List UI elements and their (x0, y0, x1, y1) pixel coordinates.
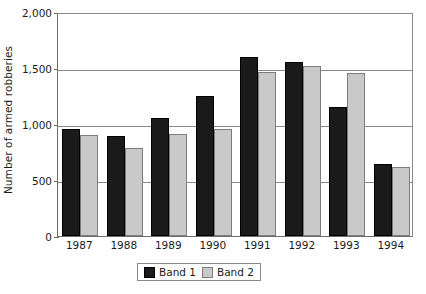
y-tick-label: 1,000 (14, 119, 52, 131)
bar-1994-band-2 (392, 167, 410, 236)
y-tick-mark (54, 237, 59, 238)
bar-group (196, 14, 232, 236)
bar-group (374, 14, 410, 236)
y-tick-label: 2,000 (14, 7, 52, 19)
bar-group (329, 14, 365, 236)
bar-1992-band-1 (285, 62, 303, 236)
bar-chart: Number of armed robberies 05001,0001,500… (0, 0, 426, 294)
legend-label: Band 2 (217, 266, 254, 278)
x-tick-label: 1990 (199, 239, 226, 251)
bar-group (62, 14, 98, 236)
bar-1989-band-2 (169, 134, 187, 236)
x-tick-label: 1991 (244, 239, 271, 251)
x-tick-label: 1989 (155, 239, 182, 251)
bar-1987-band-1 (62, 129, 80, 236)
bar-1992-band-2 (303, 66, 321, 236)
bar-1990-band-2 (214, 129, 232, 236)
bar-group (240, 14, 276, 236)
legend-swatch-icon (202, 267, 213, 278)
y-tick-label: 0 (14, 231, 52, 243)
bar-group (107, 14, 143, 236)
x-tick-label: 1993 (333, 239, 360, 251)
legend-entry-band-2: Band 2 (202, 266, 254, 278)
x-tick-label: 1992 (288, 239, 315, 251)
y-axis-ticks: 05001,0001,5002,000 (12, 0, 52, 294)
bar-1993-band-2 (347, 73, 365, 236)
legend-label: Band 1 (159, 266, 196, 278)
legend-swatch-icon (144, 267, 155, 278)
plot-area (57, 13, 413, 237)
bar-1993-band-1 (329, 107, 347, 236)
bar-1994-band-1 (374, 164, 392, 236)
legend-entry-band-1: Band 1 (144, 266, 196, 278)
bar-1989-band-1 (151, 118, 169, 236)
bar-group (151, 14, 187, 236)
bar-1991-band-2 (258, 72, 276, 236)
bar-1991-band-1 (240, 57, 258, 236)
y-tick-label: 500 (14, 175, 52, 187)
bar-1987-band-2 (80, 135, 98, 236)
y-tick-label: 1,500 (14, 63, 52, 75)
x-tick-label: 1994 (377, 239, 404, 251)
chart-legend: Band 1Band 2 (137, 263, 261, 281)
x-tick-label: 1988 (110, 239, 137, 251)
bar-1988-band-2 (125, 148, 143, 236)
bar-group (285, 14, 321, 236)
x-axis-ticks: 19871988198919901991199219931994 (57, 239, 413, 255)
x-tick-label: 1987 (66, 239, 93, 251)
bar-1990-band-1 (196, 96, 214, 236)
bar-1988-band-1 (107, 136, 125, 236)
bars-layer (58, 14, 412, 236)
